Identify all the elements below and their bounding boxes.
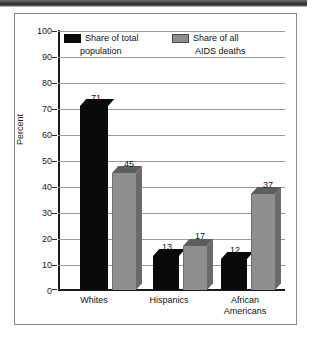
bar-whites-share-of-total-population[interactable]	[80, 106, 108, 290]
y-tick-50: 50	[22, 157, 52, 166]
y-tick-90: 90	[22, 53, 52, 62]
bar-side-face	[136, 166, 142, 290]
bar-hispanics-share-of-total-population[interactable]	[153, 256, 179, 290]
bar-side-face	[275, 187, 281, 290]
bar-hispanics-share-of-all-aids-deaths[interactable]	[183, 246, 207, 290]
y-tick-80: 80	[22, 79, 52, 88]
y-tick-0: 0	[22, 287, 52, 296]
bar-front	[153, 256, 179, 290]
bar-side-face	[207, 239, 213, 290]
bar-whites-share-of-all-aids-deaths[interactable]	[112, 173, 136, 290]
y-tick-30: 30	[22, 209, 52, 218]
legend-label-line2: population	[78, 46, 124, 56]
value-label-whites-gray: 45	[116, 159, 142, 169]
y-tick-10: 10	[22, 261, 52, 270]
legend-swatch-gray	[172, 34, 189, 43]
legend-label-line2: AIDS deaths	[193, 46, 248, 56]
value-label-hispanics-black: 13	[154, 242, 180, 252]
y-tick-70: 70	[22, 105, 52, 114]
category-label-african-americans: African Americans	[200, 295, 290, 317]
legend-label-line1: Share of total	[85, 33, 139, 43]
value-label-whites-black: 71	[83, 93, 109, 103]
bar-front	[80, 106, 108, 290]
chart-legend: Share of total population Share of all A…	[64, 33, 279, 59]
bar-african-americans-share-of-all-aids-deaths[interactable]	[251, 194, 275, 290]
legend-label-line1: Share of all	[193, 33, 239, 43]
y-tick-60: 60	[22, 131, 52, 140]
bar-african-americans-share-of-total-population[interactable]	[221, 259, 247, 290]
legend-swatch-black	[64, 34, 81, 43]
value-label-african-americans-black: 12	[222, 245, 248, 255]
value-label-african-americans-gray: 37	[255, 180, 281, 190]
gridline-100	[58, 31, 285, 32]
bar-front	[251, 194, 275, 290]
plot-area: 71 45 13 17 12 37	[58, 31, 285, 290]
y-tick-100: 100	[22, 27, 52, 36]
bar-front	[183, 246, 207, 290]
y-tick-40: 40	[22, 183, 52, 192]
bar-front	[112, 173, 136, 290]
category-label-line2: Americans	[200, 306, 290, 317]
y-axis-title: Percent	[15, 114, 25, 145]
value-label-hispanics-gray: 17	[187, 231, 213, 241]
gridline-80	[58, 83, 285, 84]
y-axis-tick-labels: 100 90 80 70 60 50 40 30 20 10 0 Percent	[20, 0, 52, 338]
bar-front	[221, 259, 247, 290]
y-tick-20: 20	[22, 235, 52, 244]
category-label-line1: African	[200, 295, 290, 306]
